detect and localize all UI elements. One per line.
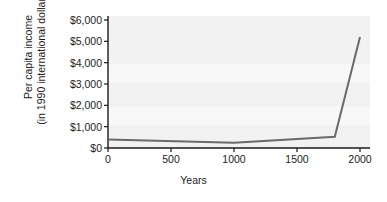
plot-band-0 [108,107,370,125]
chart-figure: Per capita income (in 1990 international… [0,0,387,202]
plot-area [0,0,387,202]
plot-band-1 [108,64,370,82]
